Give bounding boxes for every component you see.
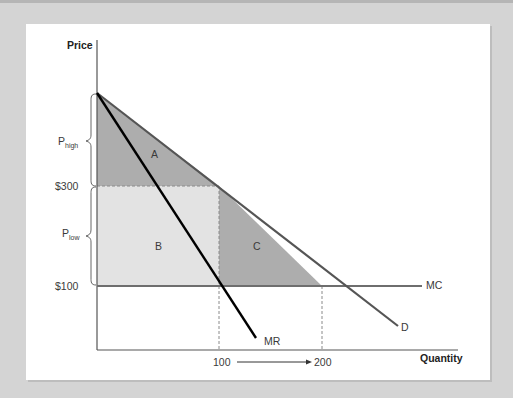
x-tick-200: 200 (314, 356, 332, 368)
region-b-label: B (155, 240, 162, 252)
demand-label: D (401, 321, 409, 333)
region-a-label: A (151, 148, 158, 160)
chart: Price Quantity Phigh Plow $300 $100 100 … (0, 0, 513, 398)
mc-label: MC (426, 279, 443, 291)
chart-panel (26, 24, 490, 380)
y-tick-100: $100 (55, 280, 79, 292)
y-tick-300: $300 (55, 180, 79, 192)
y-axis-title: Price (67, 39, 93, 51)
x-axis-title: Quantity (420, 352, 463, 364)
x-tick-100: 100 (213, 356, 231, 368)
region-b (97, 186, 219, 286)
region-c-label: C (253, 240, 261, 252)
mr-label: MR (264, 335, 281, 347)
